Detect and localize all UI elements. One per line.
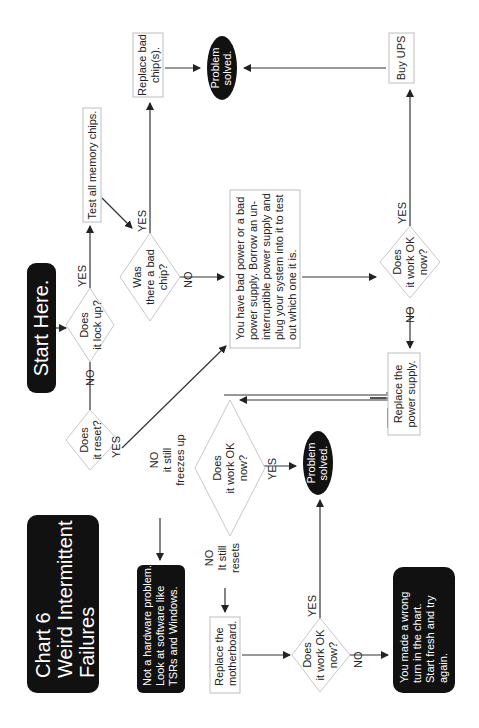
step-buy-ups[interactable]: Buy UPS <box>389 33 414 83</box>
svg-text:it work OK: it work OK <box>224 442 236 493</box>
svg-text:again.: again. <box>437 653 449 683</box>
edge-label-yes: YES <box>306 595 318 617</box>
svg-text:You made a wrong: You made a wrong <box>398 592 410 683</box>
edge-label-no: NO <box>84 369 96 386</box>
title-line-2: Weird Intermittent <box>54 520 76 678</box>
edge-label-no: NO <box>352 651 364 668</box>
flowchart-canvas: Chart 6 Weird Intermittent Failures Star… <box>0 0 479 728</box>
svg-text:Problem: Problem <box>209 48 221 89</box>
edge-label-yes: YES <box>396 202 408 224</box>
svg-text:now?: now? <box>417 249 429 275</box>
svg-text:it work OK: it work OK <box>404 236 416 287</box>
svg-text:Replace bad: Replace bad <box>136 34 148 96</box>
edge-label-no: NO <box>404 306 416 323</box>
edge-label-no-freezes: NO <box>148 451 160 468</box>
step-replace-motherboard[interactable]: Replace the motherboard. <box>210 617 240 693</box>
chart-title-box: Chart 6 Weird Intermittent Failures <box>27 515 99 693</box>
decision-work-ok-right[interactable]: Does it work OK now? <box>380 226 440 298</box>
decision-lock-up[interactable]: Does it lock up? <box>66 288 114 362</box>
decision-work-ok-bottom[interactable]: Does it work OK now? <box>292 618 350 692</box>
step-replace-bad-chips[interactable]: Replace bad chip(s). <box>133 33 163 97</box>
edge-label-yes: YES <box>266 458 278 480</box>
svg-text:Does: Does <box>301 642 313 668</box>
start-here-node[interactable]: Start Here. <box>27 263 56 393</box>
step-bad-power[interactable]: You have bad power or a bad power supply… <box>230 190 300 348</box>
svg-text:plug your system into it to te: plug your system into it to test <box>273 194 285 340</box>
svg-text:there a bad: there a bad <box>144 249 156 305</box>
edge-label-yes: YES <box>76 265 88 287</box>
svg-text:it still: it still <box>161 448 173 472</box>
edge-label-yes: YES <box>110 436 122 458</box>
svg-text:it reset?: it reset? <box>91 420 103 459</box>
svg-text:TSRs and Windows.: TSRs and Windows. <box>167 586 179 686</box>
start-label: Start Here. <box>30 280 52 377</box>
title-line-1: Chart 6 <box>32 612 54 678</box>
edge-label-yes: YES <box>136 210 148 232</box>
svg-text:Problem: Problem <box>305 443 317 484</box>
svg-text:it work OK: it work OK <box>314 629 326 680</box>
terminal-problem-solved-top[interactable]: Problem solved. <box>207 36 237 100</box>
svg-text:Not a hardware problem.: Not a hardware problem. <box>141 565 153 686</box>
svg-text:now?: now? <box>237 455 249 481</box>
step-replace-power-supply[interactable]: Replace the power supply. <box>388 353 420 435</box>
svg-text:Does: Does <box>78 312 90 338</box>
svg-text:Test all memory chips.: Test all memory chips. <box>86 111 98 220</box>
svg-text:solved.: solved. <box>317 446 329 481</box>
svg-text:You have bad power or a bad: You have bad power or a bad <box>234 197 246 340</box>
svg-text:interruptible power supply and: interruptible power supply and <box>260 193 272 340</box>
terminal-not-hardware[interactable]: Not a hardware problem. Look at software… <box>137 565 185 693</box>
svg-text:It still: It still <box>216 545 228 570</box>
edge-label-no-resets: NO <box>203 549 215 566</box>
svg-text:resets: resets <box>229 543 241 573</box>
svg-text:it lock up?: it lock up? <box>91 300 103 350</box>
svg-text:out which one it is.: out which one it is. <box>286 250 298 341</box>
terminal-problem-solved-middle[interactable]: Problem solved. <box>303 431 333 495</box>
svg-text:Does: Does <box>211 455 223 481</box>
decision-work-ok-middle[interactable]: Does it work OK now? <box>195 400 265 536</box>
svg-text:Start fresh and try: Start fresh and try <box>424 595 436 683</box>
svg-text:Replace the: Replace the <box>213 627 225 686</box>
svg-text:chip(s).: chip(s). <box>149 47 161 83</box>
svg-text:turn in the chart.: turn in the chart. <box>411 604 423 684</box>
svg-text:Was: Was <box>131 266 143 288</box>
title-line-3: Failures <box>76 607 98 678</box>
step-test-memory-chips[interactable]: Test all memory chips. <box>83 108 101 222</box>
svg-text:solved.: solved. <box>221 51 233 86</box>
terminal-wrong-turn[interactable]: You made a wrong turn in the chart. Star… <box>393 567 455 693</box>
svg-text:motherboard.: motherboard. <box>226 621 238 686</box>
svg-text:now?: now? <box>327 642 339 668</box>
svg-text:chip?: chip? <box>157 264 169 290</box>
svg-text:power supply.: power supply. <box>405 360 417 427</box>
svg-text:Look at software like: Look at software like <box>154 586 166 686</box>
decision-bad-chip[interactable]: Was there a bad chip? <box>120 233 180 321</box>
svg-text:Does: Does <box>78 427 90 453</box>
svg-text:Does: Does <box>391 249 403 275</box>
svg-text:Buy UPS: Buy UPS <box>395 36 407 81</box>
edge-label-no: NO <box>182 271 194 288</box>
svg-text:power supply. Borrow an un-: power supply. Borrow an un- <box>247 200 259 340</box>
svg-text:Replace the: Replace the <box>392 365 404 424</box>
svg-text:freezes up: freezes up <box>174 434 186 485</box>
